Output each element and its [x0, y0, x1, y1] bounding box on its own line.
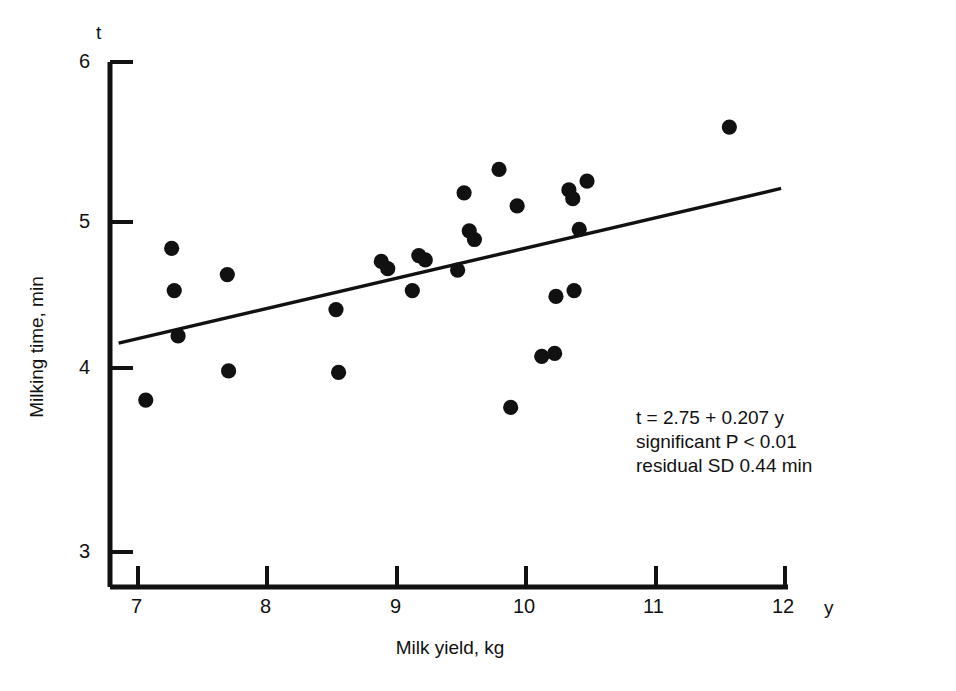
data-point: [566, 283, 581, 298]
y-tick-label-4: 4: [79, 356, 90, 379]
scatter-plot-figure: t y 6 5 4 3 7 8 9 10 11 12 Milking time,…: [0, 0, 956, 691]
y-tick-label-3: 3: [79, 540, 90, 563]
data-point: [456, 185, 471, 200]
y-axis-variable-symbol: t: [96, 22, 101, 44]
data-point: [548, 289, 563, 304]
plot-canvas: [0, 0, 956, 691]
x-axis-ticks: [138, 566, 785, 587]
annotation-significance: significant P < 0.01: [636, 430, 812, 454]
data-point: [164, 241, 179, 256]
data-point: [503, 400, 518, 415]
data-point: [405, 283, 420, 298]
x-tick-label-7: 7: [131, 595, 142, 618]
x-tick-label-10: 10: [513, 595, 535, 618]
y-axis-ticks: [110, 62, 133, 552]
y-axis-title: Milking time, min: [26, 237, 48, 457]
x-tick-label-11: 11: [643, 595, 664, 618]
data-point: [579, 174, 594, 189]
data-point: [572, 222, 587, 237]
annotation-equation: t = 2.75 + 0.207 y: [636, 406, 812, 430]
data-point: [171, 328, 186, 343]
y-tick-label-6: 6: [79, 50, 90, 73]
x-tick-label-8: 8: [260, 595, 271, 618]
data-point: [722, 120, 737, 135]
x-tick-label-9: 9: [390, 595, 401, 618]
x-axis-title: Milk yield, kg: [0, 637, 900, 659]
data-point: [167, 283, 182, 298]
data-point: [467, 232, 482, 247]
data-point: [534, 349, 549, 364]
regression-fit-line: [119, 188, 782, 343]
data-point: [418, 252, 433, 267]
regression-annotation: t = 2.75 + 0.207 y significant P < 0.01 …: [636, 406, 812, 478]
data-point: [491, 162, 506, 177]
data-point: [328, 302, 343, 317]
data-point: [380, 261, 395, 276]
axes: [110, 62, 788, 587]
data-point: [221, 363, 236, 378]
data-point: [450, 263, 465, 278]
data-point: [138, 393, 153, 408]
data-point: [331, 365, 346, 380]
x-tick-label-12: 12: [772, 595, 794, 618]
data-point: [220, 267, 235, 282]
annotation-residual-sd: residual SD 0.44 min: [636, 454, 812, 478]
x-axis-variable-symbol: y: [824, 597, 834, 619]
data-point: [510, 198, 525, 213]
y-tick-label-5: 5: [79, 210, 90, 233]
data-point: [565, 191, 580, 206]
data-point: [547, 346, 562, 361]
